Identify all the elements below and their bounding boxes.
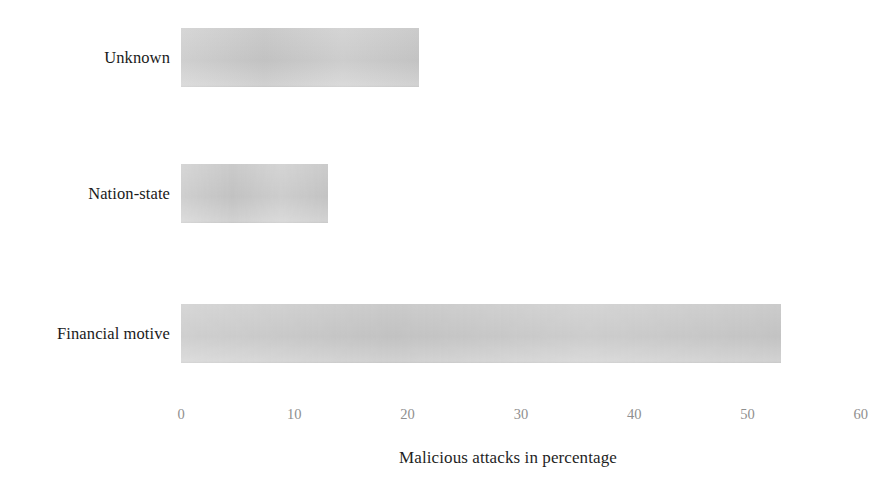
bar-row: Financial motive bbox=[0, 304, 892, 363]
x-tick-label: 10 bbox=[287, 406, 302, 423]
bar-row: Nation-state bbox=[0, 164, 892, 223]
x-axis-ticks: 0102030405060 bbox=[0, 406, 892, 432]
category-label-nation-state: Nation-state bbox=[0, 184, 170, 204]
bar-chart-figure: Unknown Nation-state Financial motive 01… bbox=[0, 0, 892, 497]
plot-area: Unknown Nation-state Financial motive bbox=[0, 0, 892, 400]
x-axis-title-text: Malicious attacks in percentage bbox=[399, 448, 617, 468]
bar-financial-motive bbox=[181, 304, 781, 363]
x-tick-label: 0 bbox=[177, 406, 184, 423]
bar-row: Unknown bbox=[0, 28, 892, 87]
category-label-unknown: Unknown bbox=[0, 48, 170, 68]
x-tick-label: 60 bbox=[854, 406, 869, 423]
x-tick-label: 40 bbox=[627, 406, 642, 423]
category-label-financial-motive: Financial motive bbox=[0, 324, 170, 344]
x-tick-label: 30 bbox=[514, 406, 529, 423]
bar-unknown bbox=[181, 28, 419, 87]
x-tick-label: 20 bbox=[400, 406, 415, 423]
x-axis-title: Malicious attacks in percentage bbox=[0, 448, 892, 468]
bar-nation-state bbox=[181, 164, 328, 223]
x-tick-label: 50 bbox=[740, 406, 755, 423]
